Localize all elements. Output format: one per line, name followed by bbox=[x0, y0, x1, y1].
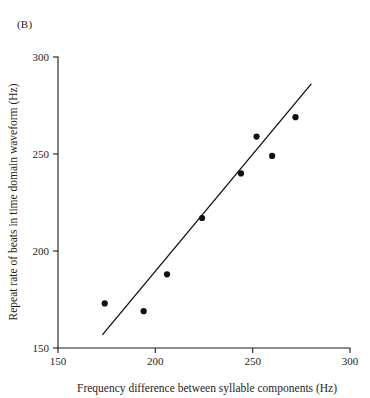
scatter-plot: 150200250300 150200250300 Frequency diff… bbox=[0, 0, 370, 398]
data-point bbox=[292, 114, 298, 120]
y-axis-tick-labels: 150200250300 bbox=[33, 51, 50, 354]
x-tick-label: 300 bbox=[342, 355, 359, 367]
data-points bbox=[102, 114, 299, 314]
x-axis-ticks bbox=[58, 348, 350, 353]
data-point bbox=[164, 271, 170, 277]
regression-line bbox=[103, 84, 311, 334]
y-tick-label: 250 bbox=[33, 148, 50, 160]
x-tick-label: 150 bbox=[50, 355, 67, 367]
y-tick-label: 300 bbox=[33, 51, 50, 63]
x-tick-label: 200 bbox=[147, 355, 164, 367]
y-tick-label: 150 bbox=[33, 342, 50, 354]
x-axis-title: Frequency difference between syllable co… bbox=[77, 382, 337, 395]
data-point bbox=[269, 153, 275, 159]
data-point bbox=[253, 133, 259, 139]
data-point bbox=[102, 300, 108, 306]
data-point bbox=[199, 215, 205, 221]
y-axis-title: Repeat rate of beats in time domain wave… bbox=[7, 83, 20, 320]
y-axis-ticks bbox=[53, 57, 58, 348]
figure-panel-b: (B) 150200250300 150200250300 Frequency … bbox=[0, 0, 370, 398]
data-point bbox=[141, 308, 147, 314]
y-tick-label: 200 bbox=[33, 245, 50, 257]
x-tick-label: 250 bbox=[244, 355, 261, 367]
x-axis-tick-labels: 150200250300 bbox=[50, 355, 359, 367]
data-point bbox=[238, 170, 244, 176]
